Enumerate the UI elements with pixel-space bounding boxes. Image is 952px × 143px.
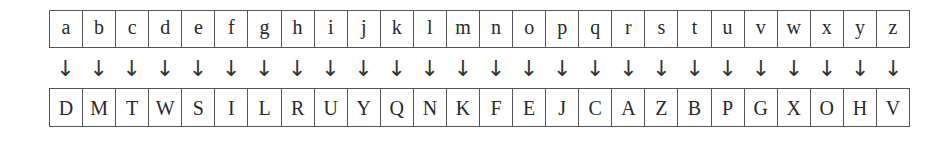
- down-arrow-icon: ↓: [380, 48, 413, 88]
- down-arrow-icon: ↓: [612, 48, 645, 88]
- plaintext-cell: a: [49, 10, 83, 48]
- plaintext-cell: v: [745, 10, 778, 48]
- ciphertext-cell: D: [49, 88, 83, 127]
- down-arrow-icon: ↓: [115, 48, 148, 88]
- plaintext-cell: i: [315, 10, 348, 48]
- plaintext-cell: c: [116, 10, 149, 48]
- plaintext-cell: t: [678, 10, 711, 48]
- plaintext-cell: q: [579, 10, 612, 48]
- down-arrow-icon: ↓: [49, 48, 82, 88]
- ciphertext-cell: O: [811, 88, 844, 127]
- plaintext-cell: z: [877, 10, 910, 48]
- down-arrow-icon: ↓: [281, 48, 314, 88]
- down-arrow-icon: ↓: [347, 48, 380, 88]
- plaintext-cell: y: [844, 10, 877, 48]
- ciphertext-cell: X: [778, 88, 811, 127]
- plaintext-cell: w: [778, 10, 811, 48]
- plaintext-cell: h: [282, 10, 315, 48]
- plaintext-cell: s: [645, 10, 678, 48]
- ciphertext-cell: T: [116, 88, 149, 127]
- down-arrow-icon: ↓: [446, 48, 479, 88]
- down-arrow-icon: ↓: [711, 48, 744, 88]
- plaintext-cell: b: [83, 10, 116, 48]
- down-arrow-icon: ↓: [877, 48, 910, 88]
- down-arrow-icon: ↓: [579, 48, 612, 88]
- down-arrow-icon: ↓: [479, 48, 512, 88]
- ciphertext-cell: P: [712, 88, 745, 127]
- plaintext-cell: o: [513, 10, 546, 48]
- ciphertext-cell: K: [447, 88, 480, 127]
- ciphertext-cell: S: [182, 88, 215, 127]
- down-arrow-icon: ↓: [546, 48, 579, 88]
- down-arrow-icon: ↓: [777, 48, 810, 88]
- ciphertext-cell: U: [315, 88, 348, 127]
- down-arrow-icon: ↓: [82, 48, 115, 88]
- down-arrow-icon: ↓: [413, 48, 446, 88]
- ciphertext-cell: V: [877, 88, 910, 127]
- ciphertext-cell: M: [83, 88, 116, 127]
- arrow-row: ↓↓↓↓↓↓↓↓↓↓↓↓↓↓↓↓↓↓↓↓↓↓↓↓↓↓: [49, 48, 910, 88]
- plaintext-cell: p: [546, 10, 579, 48]
- plaintext-cell: g: [248, 10, 281, 48]
- ciphertext-cell: Z: [645, 88, 678, 127]
- down-arrow-icon: ↓: [181, 48, 214, 88]
- down-arrow-icon: ↓: [513, 48, 546, 88]
- ciphertext-cell: B: [678, 88, 711, 127]
- down-arrow-icon: ↓: [148, 48, 181, 88]
- down-arrow-icon: ↓: [645, 48, 678, 88]
- ciphertext-cell: R: [282, 88, 315, 127]
- down-arrow-icon: ↓: [248, 48, 281, 88]
- plaintext-row: abcdefghijklmnopqrstuvwxyz: [49, 10, 910, 48]
- ciphertext-cell: A: [612, 88, 645, 127]
- ciphertext-cell: F: [480, 88, 513, 127]
- down-arrow-icon: ↓: [844, 48, 877, 88]
- ciphertext-cell: E: [513, 88, 546, 127]
- plaintext-cell: x: [811, 10, 844, 48]
- substitution-cipher-table: abcdefghijklmnopqrstuvwxyz ↓↓↓↓↓↓↓↓↓↓↓↓↓…: [49, 10, 910, 127]
- plaintext-cell: j: [348, 10, 381, 48]
- ciphertext-cell: I: [215, 88, 248, 127]
- down-arrow-icon: ↓: [678, 48, 711, 88]
- ciphertext-cell: W: [149, 88, 182, 127]
- plaintext-cell: r: [612, 10, 645, 48]
- plaintext-cell: m: [447, 10, 480, 48]
- down-arrow-icon: ↓: [811, 48, 844, 88]
- ciphertext-cell: H: [844, 88, 877, 127]
- ciphertext-cell: N: [414, 88, 447, 127]
- plaintext-cell: f: [215, 10, 248, 48]
- plaintext-cell: n: [480, 10, 513, 48]
- ciphertext-row: DMTWSILRUYQNKFEJCAZBPGXOHV: [49, 88, 910, 127]
- ciphertext-cell: Y: [348, 88, 381, 127]
- plaintext-cell: e: [182, 10, 215, 48]
- ciphertext-cell: C: [579, 88, 612, 127]
- down-arrow-icon: ↓: [314, 48, 347, 88]
- ciphertext-cell: J: [546, 88, 579, 127]
- ciphertext-cell: Q: [381, 88, 414, 127]
- plaintext-cell: d: [149, 10, 182, 48]
- down-arrow-icon: ↓: [744, 48, 777, 88]
- ciphertext-cell: G: [745, 88, 778, 127]
- plaintext-cell: u: [712, 10, 745, 48]
- plaintext-cell: l: [414, 10, 447, 48]
- ciphertext-cell: L: [248, 88, 281, 127]
- plaintext-cell: k: [381, 10, 414, 48]
- down-arrow-icon: ↓: [215, 48, 248, 88]
